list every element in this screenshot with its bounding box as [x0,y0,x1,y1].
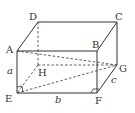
right-angle-mark-E [17,86,23,92]
vertex-label-D: D [29,11,37,22]
vertex-label-A: A [5,44,14,55]
vertex-label-E: E [5,93,12,104]
cuboid-diagram: D C A B H G E F a b c [0,0,135,113]
edge-label-a: a [7,65,13,76]
diagonal-AG [17,51,117,65]
vertex-label-G: G [119,63,127,74]
edge-AD [17,22,38,51]
vertex-label-H: H [38,67,47,78]
edge-HE [17,65,38,93]
diagonal-EG [17,65,117,93]
vertex-label-C: C [115,11,123,22]
edge-label-b: b [55,94,61,105]
edge-CB [97,22,117,51]
vertex-label-F: F [95,95,102,106]
vertex-label-B: B [92,39,99,50]
edge-label-c: c [111,74,117,85]
